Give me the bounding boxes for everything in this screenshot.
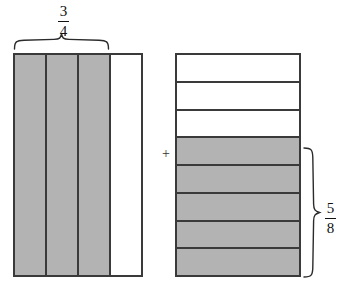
left-brace: [13, 33, 111, 50]
left-cell-4: [111, 55, 141, 275]
left-cell-2: [47, 55, 79, 275]
right-cell-8: [177, 249, 299, 275]
left-fraction-bar: [58, 21, 69, 22]
left-cell-3: [79, 55, 111, 275]
fraction-addition-figure: 3 4 + 5 8: [0, 0, 346, 287]
plus-operator: +: [158, 146, 174, 162]
right-cell-5: [177, 166, 299, 194]
right-cell-6: [177, 194, 299, 222]
right-fraction-bar: [325, 218, 336, 219]
right-cell-2: [177, 83, 299, 111]
right-area-model: [175, 53, 301, 277]
right-fraction-label: 5 8: [325, 201, 336, 236]
right-fraction-numerator: 5: [326, 201, 336, 217]
right-cell-1: [177, 55, 299, 83]
left-cell-1: [15, 55, 47, 275]
right-cell-7: [177, 222, 299, 250]
right-fraction-denominator: 8: [326, 220, 336, 236]
left-fraction-numerator: 3: [59, 4, 69, 20]
right-cell-4: [177, 138, 299, 166]
right-cell-3: [177, 111, 299, 139]
right-brace: [303, 147, 321, 278]
left-area-model: [13, 53, 143, 277]
